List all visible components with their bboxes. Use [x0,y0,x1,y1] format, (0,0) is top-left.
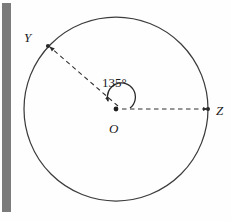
geometry-figure [0,0,231,221]
point-marker-z [206,107,210,111]
point-label-o: O [109,122,118,135]
figure-canvas: Y Z O 135° [0,0,231,221]
point-marker-o [114,107,119,112]
point-label-y: Y [24,31,31,44]
angle-measure-label: 135° [102,76,127,89]
point-marker-y [46,44,50,48]
point-label-z: Z [216,104,223,117]
